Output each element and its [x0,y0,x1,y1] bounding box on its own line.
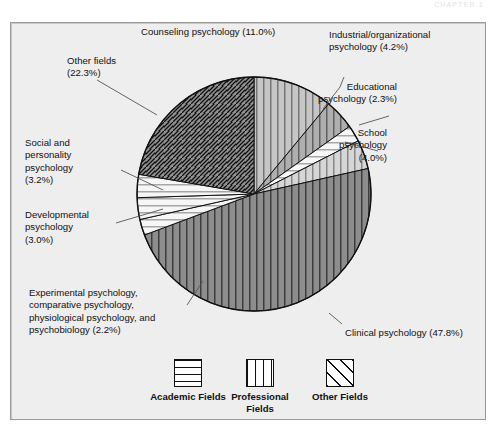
callout-social: Social and personality psychology (3.2%) [25,137,73,187]
legend-label-other: Other Fields [297,391,383,403]
running-head: CHAPTER 1 [434,1,484,8]
callout-other-fields: Other fields (22.3%) [67,55,116,80]
callout-educational: Educational psychology (2.3%) [269,81,397,106]
figure-panel: Counseling psychology (11.0%)Industrial/… [10,22,486,420]
legend-item-professional: Professional Fields [217,359,303,414]
legend-swatch-vertical-lines-icon [246,359,274,387]
callout-experimental: Experimental psychology, comparative psy… [29,287,155,337]
legend: Academic Fields Professional Fields Othe… [155,359,367,413]
callout-school: School psychology (4.0%) [301,127,387,164]
leader-line-educational [359,116,389,125]
legend-item-other: Other Fields [297,359,383,403]
legend-label-professional: Professional Fields [217,391,303,414]
legend-swatch-diagonal-lines-icon [326,359,354,387]
legend-swatch-horizontal-lines-icon [174,359,202,387]
callout-industrial: Industrial/organizational psychology (4.… [329,29,430,54]
pie-slice[interactable]: Other fields (22.3%) [139,77,254,194]
leader-line-other-fields [97,80,157,115]
leader-line-clinical [329,313,342,324]
pie-slice-group: Counseling psychology (11.0%)Industrial/… [137,77,371,311]
callout-developmental: Developmental psychology (3.0%) [25,209,89,246]
callout-clinical: Clinical psychology (47.8%) [345,327,463,339]
callout-counseling: Counseling psychology (11.0%) [141,26,275,38]
